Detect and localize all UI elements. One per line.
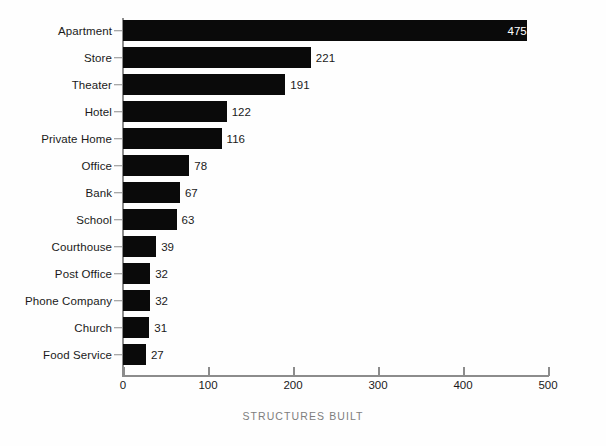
category-label: Hotel (85, 106, 112, 118)
category-label: Store (84, 52, 112, 64)
category-label: Private Home (41, 133, 112, 145)
bar (123, 236, 156, 257)
bar (123, 344, 146, 365)
category-label: Church (74, 322, 112, 334)
bar-value-label: 221 (311, 52, 335, 64)
x-axis-tick-label: 200 (283, 379, 302, 391)
table-row: Hotel122 (0, 101, 606, 122)
bar-value-label: 27 (146, 349, 164, 361)
table-row: Phone Company32 (0, 290, 606, 311)
category-label: Food Service (43, 349, 112, 361)
bar (123, 128, 222, 149)
category-tick (114, 273, 123, 275)
bar (123, 155, 189, 176)
bar (123, 47, 311, 68)
table-row: Store221 (0, 47, 606, 68)
x-axis-tick (208, 367, 210, 376)
table-row: Post Office32 (0, 263, 606, 284)
x-axis-line (122, 375, 549, 377)
x-axis-tick-label: 100 (198, 379, 217, 391)
bar-value-label: 32 (150, 295, 168, 307)
bar-value-label: 63 (177, 214, 195, 226)
x-axis-tick-label: 400 (453, 379, 472, 391)
category-tick (114, 165, 123, 167)
category-tick (114, 192, 123, 194)
bar (123, 182, 180, 203)
bar (123, 209, 177, 230)
x-axis-tick-label: 500 (538, 379, 557, 391)
table-row: School63 (0, 209, 606, 230)
bar-value-label: 67 (180, 187, 198, 199)
bar (123, 20, 527, 41)
bar (123, 290, 150, 311)
category-tick (114, 138, 123, 140)
x-axis-tick (293, 367, 295, 376)
category-tick (114, 327, 123, 329)
category-tick (114, 300, 123, 302)
x-axis-tick-label: 300 (368, 379, 387, 391)
category-label: Post Office (55, 268, 112, 280)
x-axis-tick (463, 367, 465, 376)
x-axis-tick (378, 367, 380, 376)
table-row: Church31 (0, 317, 606, 338)
bar-value-label: 122 (227, 106, 251, 118)
category-tick (114, 57, 123, 59)
bar (123, 263, 150, 284)
bar-value-label: 78 (189, 160, 207, 172)
bar-value-label: 116 (222, 133, 245, 145)
bar (123, 74, 285, 95)
category-label: Bank (85, 187, 112, 199)
category-label: Theater (72, 79, 112, 91)
table-row: Office78 (0, 155, 606, 176)
table-row: Bank67 (0, 182, 606, 203)
category-label: School (76, 214, 112, 226)
x-axis-tick (123, 367, 125, 376)
x-axis-tick-label: 0 (120, 379, 126, 391)
table-row: Private Home116 (0, 128, 606, 149)
category-label: Phone Company (25, 295, 112, 307)
bar-value-label: 191 (285, 79, 309, 91)
table-row: Apartment475 (0, 20, 606, 41)
table-row: Food Service27 (0, 344, 606, 365)
category-tick (114, 111, 123, 113)
category-label: Courthouse (52, 241, 112, 253)
bar-value-label: 39 (156, 241, 174, 253)
category-label: Office (82, 160, 112, 172)
category-tick (114, 30, 123, 32)
category-tick (114, 246, 123, 248)
bar-value-label: 31 (149, 322, 167, 334)
bar-chart: Apartment475Store221Theater191Hotel122Pr… (0, 0, 606, 446)
x-axis-title: STRUCTURES BUILT (0, 410, 606, 422)
category-tick (114, 219, 123, 221)
x-axis-tick (548, 367, 550, 376)
bar-value-label: 475 (481, 25, 534, 37)
category-tick (114, 84, 123, 86)
table-row: Courthouse39 (0, 236, 606, 257)
plot-area: Apartment475Store221Theater191Hotel122Pr… (0, 0, 606, 446)
bar-value-label: 32 (150, 268, 168, 280)
bar (123, 317, 149, 338)
table-row: Theater191 (0, 74, 606, 95)
category-label: Apartment (58, 25, 112, 37)
bar (123, 101, 227, 122)
category-tick (114, 354, 123, 356)
